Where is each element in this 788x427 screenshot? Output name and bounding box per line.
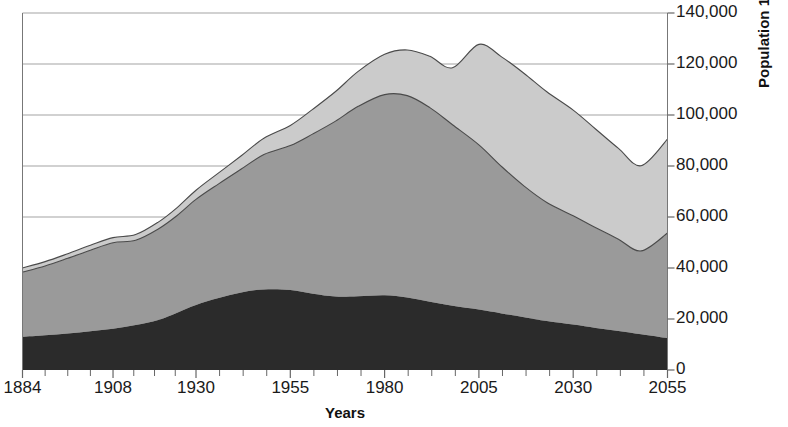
x-tick-label: 1930	[166, 378, 226, 398]
area-chart: 020,00040,00060,00080,000100,000120,0001…	[0, 0, 788, 427]
x-tick-label: 2055	[638, 378, 698, 398]
x-tick-label: 1884	[0, 378, 53, 398]
y-axis-title: Population 1000s	[755, 0, 772, 88]
x-tick-label: 1980	[355, 378, 415, 398]
y-tick-label: 100,000	[676, 104, 737, 124]
y-axis-ticks	[668, 13, 675, 370]
y-tick-label: 120,000	[676, 53, 737, 73]
y-tick-label: 60,000	[676, 206, 728, 226]
x-tick-label: 1908	[83, 378, 143, 398]
x-tick-label: 1955	[260, 378, 320, 398]
y-tick-label: 80,000	[676, 155, 728, 175]
series-layers	[23, 44, 668, 370]
y-tick-label: 20,000	[676, 308, 728, 328]
y-tick-label: 0	[676, 359, 685, 379]
y-tick-label: 140,000	[676, 2, 737, 22]
plot-area	[0, 0, 788, 427]
y-tick-label: 40,000	[676, 257, 728, 277]
x-tick-label: 2005	[449, 378, 509, 398]
x-axis-ticks	[23, 370, 668, 378]
x-tick-label: 2030	[543, 378, 603, 398]
x-axis-title: Years	[0, 404, 690, 421]
